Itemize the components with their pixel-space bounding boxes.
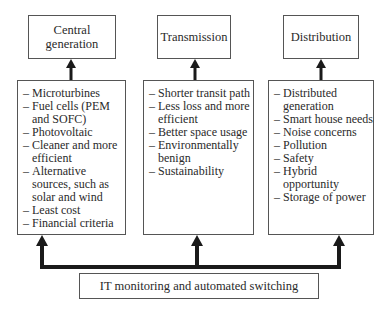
list-item: Cleaner and more efficient — [23, 139, 125, 165]
it-monitoring-box: IT monitoring and automated switching — [79, 273, 319, 299]
list-item: Financial criteria — [23, 217, 125, 230]
it-monitoring-label: IT monitoring and automated switching — [100, 279, 298, 293]
distribution-details: Distributed generation Smart house needs… — [268, 80, 374, 235]
central-generation-details: Microturbines Fuel cells (PEM and SOFC) … — [17, 80, 126, 235]
list-item: Environmentally benign — [149, 139, 253, 165]
distribution-box: Distribution — [283, 15, 359, 59]
list-item: Less loss and more efficient — [149, 100, 253, 126]
transmission-label: Transmission — [161, 30, 228, 44]
diagram-canvas: Central generation Transmission Distribu… — [0, 0, 391, 312]
central-generation-label: Central generation — [37, 23, 107, 51]
list-item: Sustainability — [149, 165, 253, 178]
list-item: Fuel cells (PEM and SOFC) — [23, 100, 125, 126]
transmission-details: Shorter transit path Less loss and more … — [143, 80, 254, 235]
list-item: Distributed generation — [274, 87, 373, 113]
list-item: Hybrid opportunity — [274, 165, 373, 191]
central-generation-box: Central generation — [28, 15, 116, 59]
list-item: Storage of power — [274, 191, 373, 204]
list-item: Alternative sources, such as solar and w… — [23, 165, 125, 204]
transmission-box: Transmission — [157, 15, 231, 59]
distribution-label: Distribution — [291, 30, 351, 44]
